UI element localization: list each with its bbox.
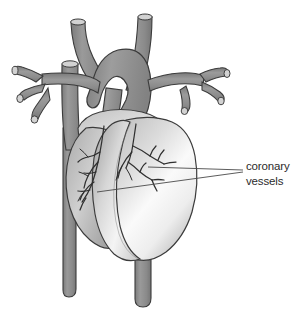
heart-illustration [0, 0, 296, 315]
left-pulmonary-artery [148, 73, 204, 91]
annotation-line-2: vessels [246, 174, 296, 189]
heart-chambers-group [66, 110, 197, 261]
annotation-coronary-vessels: coronary vessels [246, 159, 296, 189]
heart-anatomy-figure: coronary vessels [0, 0, 296, 315]
annotation-line-1: coronary [246, 159, 296, 174]
